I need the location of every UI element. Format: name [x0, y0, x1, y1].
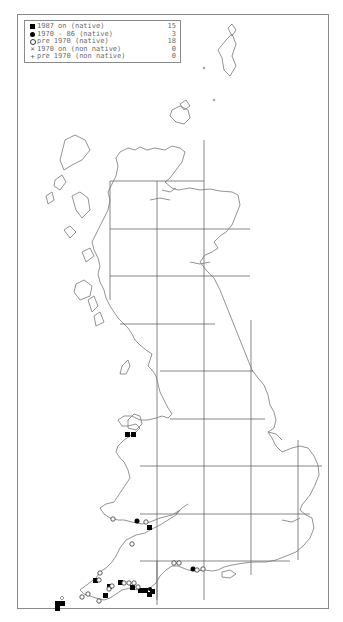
islands-west — [46, 135, 104, 326]
mainland-outline — [80, 146, 319, 600]
legend-count: 0 — [154, 53, 176, 61]
filled-square-icon — [29, 24, 36, 29]
coastline — [60, 146, 319, 600]
legend: 1987 on (native) 15 1970 - 86 (native) 3… — [24, 20, 181, 63]
distribution-map — [0, 0, 343, 622]
plus-icon: + — [29, 54, 36, 61]
records-1987-on-native — [55, 432, 155, 611]
filled-circle-icon — [29, 32, 36, 37]
grid-lines — [110, 140, 322, 605]
open-circle-icon — [29, 39, 36, 45]
legend-label: pre 1970 (non native) — [37, 53, 154, 61]
legend-row-pre-1970-non-native: + pre 1970 (non native) 0 — [29, 53, 176, 61]
records-1970-86-native — [135, 519, 196, 592]
